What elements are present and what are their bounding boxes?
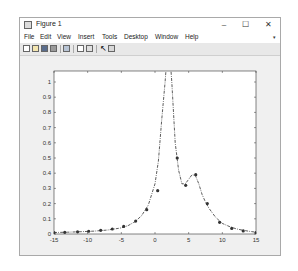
data-point (184, 184, 187, 187)
x-tick-label: -5 (119, 237, 125, 243)
x-tick-label: 15 (253, 237, 260, 243)
y-tick-label: 0.4 (43, 170, 52, 176)
data-point (134, 219, 137, 222)
y-tick-label: 0.6 (43, 140, 52, 146)
y-tick-label: 1 (48, 79, 52, 85)
x-tick-label: 10 (219, 237, 226, 243)
data-point (194, 173, 197, 176)
data-point (230, 227, 233, 230)
data-point (242, 229, 245, 232)
axes-box[interactable] (54, 71, 256, 234)
y-tick-label: 0.8 (43, 109, 52, 115)
data-point (156, 189, 159, 192)
data-point (87, 230, 90, 233)
y-tick-label: 0.1 (43, 216, 52, 222)
x-tick-label: -10 (83, 237, 92, 243)
data-point (76, 230, 79, 233)
data-point (145, 208, 148, 211)
x-tick-label: 5 (187, 237, 191, 243)
y-tick-label: 0.9 (43, 94, 52, 100)
y-tick-label: 0.2 (43, 201, 52, 207)
y-tick-label: 0.7 (43, 125, 52, 131)
y-tick-label: 0.5 (43, 155, 52, 161)
data-point (111, 227, 114, 230)
data-point (168, 35, 171, 38)
data-point (63, 231, 66, 234)
data-point (122, 225, 125, 228)
chart: 00.10.20.30.40.50.60.70.80.91 -15-10-505… (0, 0, 298, 271)
data-point (52, 231, 55, 234)
data-point (176, 156, 179, 159)
y-tick-label: 0.3 (43, 185, 52, 191)
data-point (218, 221, 221, 224)
data-point (99, 229, 102, 232)
data-point (206, 202, 209, 205)
x-tick-label: -15 (50, 237, 59, 243)
x-tick-label: 0 (153, 237, 157, 243)
data-point (254, 231, 257, 234)
